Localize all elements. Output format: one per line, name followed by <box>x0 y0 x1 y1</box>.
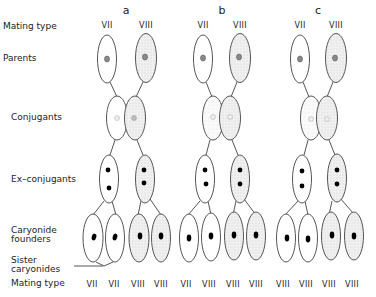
panel-c <box>277 34 364 263</box>
ex-conjugant-cell-b-right <box>231 155 250 203</box>
ex-conjugant-cell-b-left <box>196 155 215 203</box>
panel-a <box>74 34 171 267</box>
ex-conjugant-cell-c-left <box>293 155 312 203</box>
conjugation-diagram <box>0 0 376 297</box>
ex-conjugant-cell-c-right <box>328 154 347 202</box>
ex-conjugant-cell-a-left <box>100 155 119 203</box>
ex-conjugant-cell-a-right <box>136 155 155 203</box>
panel-b <box>180 34 266 263</box>
